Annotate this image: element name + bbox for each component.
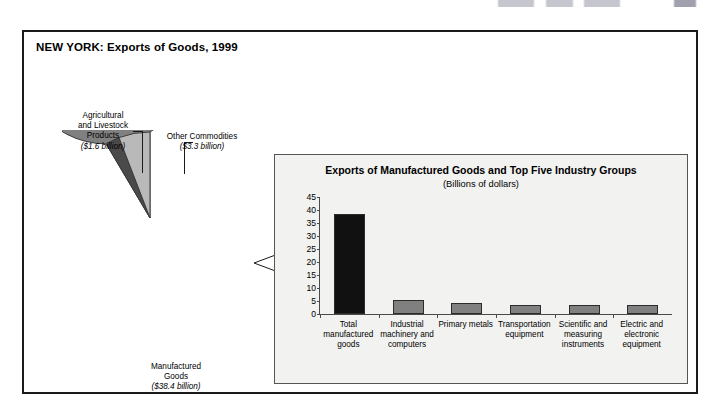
bar[interactable] bbox=[451, 303, 482, 314]
x-axis-tick-mark bbox=[379, 314, 380, 318]
y-axis-tick-label: 25 bbox=[306, 245, 316, 254]
bar-slot bbox=[320, 197, 379, 314]
pie-label-amount: ($38.4 billion) bbox=[118, 382, 234, 392]
x-axis-tick-mark bbox=[437, 314, 438, 318]
bar-series bbox=[320, 197, 672, 314]
bar-chart-panel: Exports of Manufactured Goods and Top Fi… bbox=[274, 154, 688, 384]
x-axis-tick-label: Total manufactured goods bbox=[319, 320, 378, 350]
x-axis-tick-mark bbox=[555, 314, 556, 318]
y-axis-tick-label: 0 bbox=[311, 310, 316, 319]
pie-label-line1: Other Commodities bbox=[152, 132, 252, 142]
y-axis-tick-label: 15 bbox=[306, 271, 316, 280]
pie-label-line1: Agricultural bbox=[60, 111, 146, 121]
y-axis-tick-label: 5 bbox=[311, 297, 316, 306]
bar-chart-subtitle: (Billions of dollars) bbox=[275, 179, 687, 189]
x-axis-tick-mark bbox=[320, 314, 321, 318]
x-axis-tick-mark bbox=[496, 314, 497, 318]
pie-label-line2: and Livestock bbox=[60, 121, 146, 131]
pie-label-manufactured-goods: Manufactured Goods ($38.4 billion) bbox=[118, 362, 234, 393]
pie-chart-svg bbox=[62, 130, 238, 306]
bar[interactable] bbox=[569, 305, 600, 314]
x-axis-labels: Total manufactured goodsIndustrial machi… bbox=[319, 320, 671, 350]
x-axis-tick-label: Scientific and measuring instruments bbox=[554, 320, 613, 350]
pie-label-line3: Products bbox=[60, 131, 146, 141]
x-axis-tick-label: Electric and electronic equipment bbox=[612, 320, 671, 350]
bar[interactable] bbox=[510, 305, 541, 314]
x-axis-tick-label: Primary metals bbox=[436, 320, 495, 350]
bar-slot bbox=[379, 197, 438, 314]
figure-frame: NEW YORK: Exports of Goods, 1999 Agricul… bbox=[22, 30, 698, 394]
pie-chart: Agricultural and Livestock Products ($1.… bbox=[24, 32, 274, 396]
x-axis-tick-label: Industrial machinery and computers bbox=[378, 320, 437, 350]
bar-slot bbox=[437, 197, 496, 314]
y-axis-tick-label: 45 bbox=[306, 193, 316, 202]
y-axis-tick-label: 20 bbox=[306, 258, 316, 267]
bar-slot bbox=[613, 197, 672, 314]
x-axis-tick-label: Transportation equipment bbox=[495, 320, 554, 350]
bar[interactable] bbox=[393, 300, 424, 314]
bar[interactable] bbox=[334, 214, 365, 314]
bar[interactable] bbox=[627, 305, 658, 314]
pie-label-agricultural-and-livestock-products: Agricultural and Livestock Products ($1.… bbox=[60, 111, 146, 152]
pie-label-line1: Manufactured bbox=[118, 362, 234, 372]
y-axis-tick-label: 30 bbox=[306, 232, 316, 241]
bar-chart-plot-area: 454035302520151050 bbox=[319, 197, 672, 315]
y-axis-tick-label: 40 bbox=[306, 206, 316, 215]
x-axis-tick-mark bbox=[613, 314, 614, 318]
y-axis-tick-label: 35 bbox=[306, 219, 316, 228]
bar-slot bbox=[555, 197, 614, 314]
pie-label-other-commodities: Other Commodities ($3.3 billion) bbox=[152, 132, 252, 152]
bar-chart-title: Exports of Manufactured Goods and Top Fi… bbox=[275, 164, 687, 176]
pie-label-amount: ($1.6 billion) bbox=[60, 142, 146, 152]
y-axis-tick-label: 10 bbox=[306, 284, 316, 293]
bar-slot bbox=[496, 197, 555, 314]
pie-label-amount: ($3.3 billion) bbox=[152, 142, 252, 152]
pie-label-line2: Goods bbox=[118, 372, 234, 382]
page-top-cut-off-text bbox=[437, 0, 699, 7]
